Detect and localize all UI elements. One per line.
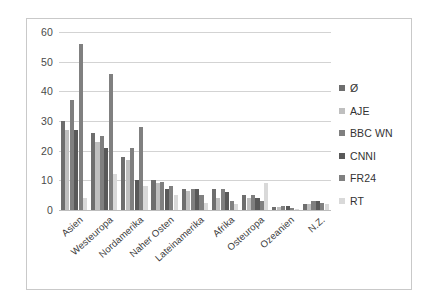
legend-swatch-icon <box>339 198 345 204</box>
bar <box>204 203 208 210</box>
chart-legend: ØAJEBBC WNCNNIFR24RT <box>339 77 413 212</box>
legend-item-label: RT <box>350 195 364 207</box>
legend-item[interactable]: AJE <box>339 100 413 123</box>
bar <box>79 44 83 210</box>
gridline-0 <box>59 210 331 211</box>
y-axis-tick-labels: 0102030405060 <box>27 32 57 210</box>
legend-item[interactable]: CNNI <box>339 145 413 168</box>
x-axis-tick-labels: AsienWesteuropaNordamerikaNaher OstenLat… <box>59 212 331 282</box>
legend-swatch-icon <box>339 108 345 114</box>
legend-swatch-icon <box>339 85 345 91</box>
legend-swatch-icon <box>339 130 345 136</box>
bar <box>143 186 147 210</box>
bar-group <box>150 32 180 210</box>
bar <box>295 209 299 210</box>
legend-item-label: FR24 <box>350 172 376 184</box>
y-tick-label-60: 60 <box>41 26 53 38</box>
bar-group <box>89 32 119 210</box>
legend-item-label: CNNI <box>350 150 376 162</box>
y-tick-label-0: 0 <box>47 204 53 216</box>
chart-frame: 0102030405060 AsienWesteuropaNordamerika… <box>26 18 412 290</box>
bar-group <box>301 32 331 210</box>
y-tick-label-40: 40 <box>41 85 53 97</box>
legend-item-label: Ø <box>350 82 358 94</box>
bar <box>325 204 329 210</box>
legend-item[interactable]: FR24 <box>339 167 413 190</box>
legend-item[interactable]: Ø <box>339 77 413 100</box>
x-tick-label: Asien <box>60 214 86 239</box>
y-tick-label-10: 10 <box>41 174 53 186</box>
legend-item-label: AJE <box>350 105 370 117</box>
bar <box>113 174 117 210</box>
bars-layer <box>59 32 331 210</box>
y-tick-label-20: 20 <box>41 145 53 157</box>
y-tick-label-30: 30 <box>41 115 53 127</box>
legend-item[interactable]: BBC WN <box>339 122 413 145</box>
bar-group <box>180 32 210 210</box>
legend-item[interactable]: RT <box>339 190 413 213</box>
x-tick-label: N.Z. <box>306 214 327 235</box>
legend-swatch-icon <box>339 175 345 181</box>
bar-group <box>271 32 301 210</box>
bar <box>83 198 87 210</box>
bar <box>174 195 178 210</box>
bar-group <box>59 32 89 210</box>
bar-group <box>210 32 240 210</box>
bar-group <box>119 32 149 210</box>
legend-item-label: BBC WN <box>350 127 393 139</box>
bar <box>264 183 268 210</box>
legend-swatch-icon <box>339 153 345 159</box>
bar-group <box>240 32 270 210</box>
bar <box>234 204 238 210</box>
y-tick-label-50: 50 <box>41 56 53 68</box>
x-tick-label: Afrika <box>210 214 236 239</box>
